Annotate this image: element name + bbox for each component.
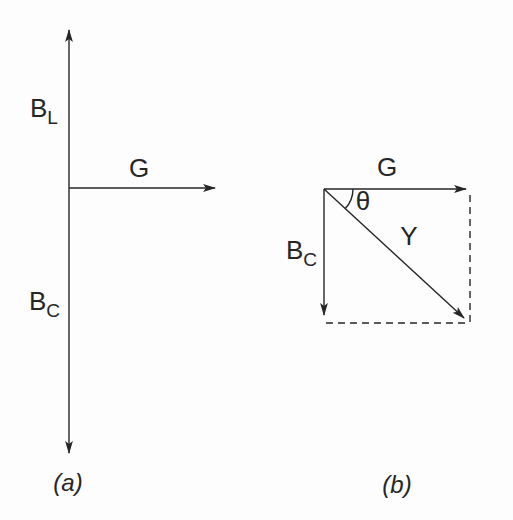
caption-b: (b) bbox=[382, 471, 411, 498]
diagram-b: G θ Y BC (b) bbox=[286, 152, 470, 498]
label-theta: θ bbox=[356, 186, 370, 216]
phasor-diagram-svg: BL BC G (a) G θ Y BC (b) bbox=[0, 0, 513, 520]
label-bc-a: BC bbox=[29, 286, 60, 321]
label-g-a: G bbox=[129, 153, 149, 183]
figure-canvas: BL BC G (a) G θ Y BC (b) bbox=[0, 0, 513, 520]
y-vector bbox=[324, 189, 464, 318]
theta-angle-arc bbox=[345, 189, 353, 209]
label-y: Y bbox=[400, 221, 417, 251]
label-g-b: G bbox=[377, 152, 397, 182]
label-bc-b: BC bbox=[286, 235, 317, 270]
diagram-a: BL BC G (a) bbox=[29, 30, 215, 496]
caption-a: (a) bbox=[53, 469, 82, 496]
label-bl: BL bbox=[30, 93, 58, 128]
